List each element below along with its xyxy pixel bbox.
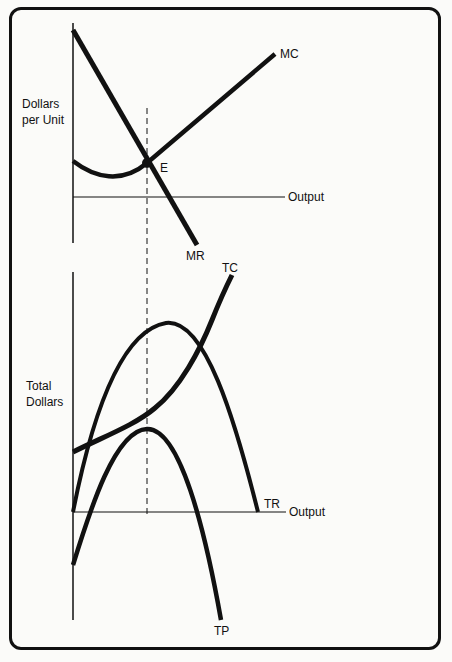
label-mc: MC bbox=[280, 47, 299, 61]
top-panel: Dollars per Unit E MC MR Output bbox=[22, 23, 325, 514]
bottom-ylabel-2: Dollars bbox=[26, 395, 63, 409]
economics-diagram: Dollars per Unit E MC MR Output Total Do… bbox=[0, 0, 452, 662]
tp-curve bbox=[73, 429, 221, 620]
label-e: E bbox=[160, 161, 168, 175]
bottom-panel: Total Dollars TC TR Output TP bbox=[26, 261, 326, 638]
label-tc: TC bbox=[222, 261, 238, 275]
top-ylabel-2: per Unit bbox=[22, 113, 65, 127]
bottom-xlabel: Output bbox=[289, 505, 326, 519]
mc-curve bbox=[73, 54, 275, 176]
top-ylabel-1: Dollars bbox=[22, 97, 59, 111]
bottom-ylabel-1: Total bbox=[26, 379, 51, 393]
label-mr: MR bbox=[186, 249, 205, 263]
label-tr: TR bbox=[264, 497, 280, 511]
label-tp: TP bbox=[214, 624, 229, 638]
equilibrium-point bbox=[142, 158, 152, 168]
top-xlabel: Output bbox=[288, 190, 325, 204]
